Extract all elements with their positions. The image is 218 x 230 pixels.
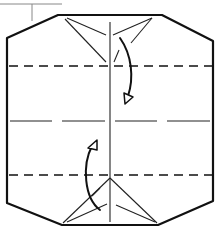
fold-down-arrow-icon <box>120 38 133 104</box>
diagram-canvas <box>0 0 218 230</box>
top-flap-creases <box>65 18 152 62</box>
